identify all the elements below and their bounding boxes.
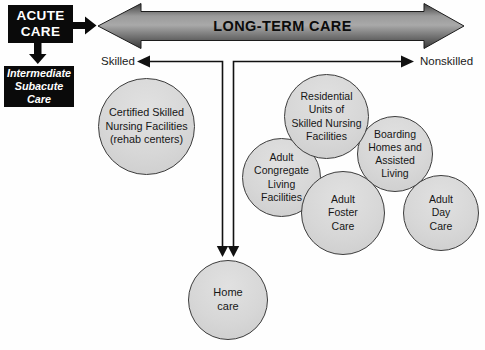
facility-circle-certified-skilled-nursing: Certified Skilled Nursing Facilities (re… [98, 78, 195, 175]
facility-circle-adult-day-care: Adult Day Care [403, 175, 479, 251]
long-term-care-diagram: ACUTE CARE Intermediate Subacute Care LO… [0, 0, 485, 350]
long-term-care-label: LONG-TERM CARE [141, 18, 424, 34]
intermediate-subacute-care-box: Intermediate Subacute Care [4, 66, 74, 107]
facility-circle-residential-units-skilled-nursing: Residential Units of Skilled Nursing Fac… [284, 74, 369, 159]
nonskilled-label: Nonskilled [420, 55, 473, 67]
skilled-label: Skilled [101, 55, 135, 67]
facility-circle-home-care: Home care [188, 260, 268, 340]
acute-care-box: ACUTE CARE [8, 5, 73, 43]
acute-to-intermediate-arrow-icon [29, 43, 47, 64]
facility-circle-adult-foster-care: Adult Foster Care [301, 171, 385, 255]
acute-to-longterm-arrow-icon [73, 17, 97, 35]
